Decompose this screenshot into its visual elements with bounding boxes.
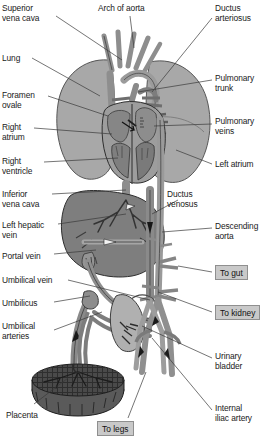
- ductus-venosus-vessel: [147, 190, 153, 300]
- label-right-atrium: Right atrium: [2, 123, 25, 142]
- label-right-ventricle: Right ventricle: [2, 157, 32, 176]
- label-placenta: Placenta: [6, 411, 38, 421]
- label-ductus-arteriosus: Ductus arteriosus: [215, 4, 251, 23]
- label-umbilicus: Umbilicus: [2, 299, 37, 309]
- label-to-kidney: To kidney: [215, 305, 260, 320]
- label-umbilical-vein: Umbilical vein: [2, 276, 52, 286]
- label-arch-of-aorta: Arch of aorta: [98, 4, 145, 14]
- label-internal-iliac-artery: Internal iliac artery: [215, 404, 252, 423]
- label-urinary-bladder: Urinary bladder: [215, 352, 242, 371]
- label-to-gut: To gut: [215, 265, 248, 280]
- label-foramen-ovale: Foramen ovale: [2, 91, 35, 110]
- label-pulmonary-veins: Pulmonary veins: [215, 117, 254, 136]
- label-pulmonary-trunk: Pulmonary trunk: [215, 74, 254, 93]
- label-left-hepatic-vein: Left hepatic vein: [2, 221, 44, 240]
- label-umbilical-arteries: Umbilical arteries: [2, 322, 35, 341]
- label-superior-vena-cava: Superior vena cava: [2, 4, 39, 23]
- label-left-atrium: Left atrium: [215, 160, 253, 170]
- label-lung: Lung: [2, 54, 20, 64]
- label-to-legs: To legs: [97, 421, 134, 436]
- placenta: [32, 364, 124, 416]
- label-portal-vein: Portal vein: [2, 252, 40, 262]
- label-descending-aorta: Descending aorta: [215, 222, 258, 241]
- heart: [102, 102, 165, 184]
- label-ductus-venosus: Ductus venosus: [167, 190, 198, 209]
- figure-canvas: Superior vena cava Lung Foramen ovale Ri…: [0, 0, 275, 448]
- label-inferior-vena-cava: Inferior vena cava: [2, 190, 39, 209]
